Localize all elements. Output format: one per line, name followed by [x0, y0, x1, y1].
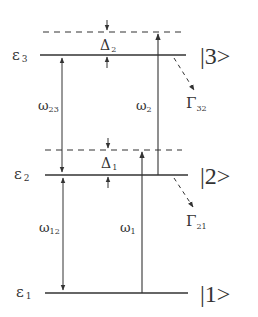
omega2-label: ω2 — [136, 98, 152, 114]
ket-label-1: |1> — [200, 281, 230, 307]
omega1-label: ω1 — [120, 220, 136, 236]
energy-level-diagram: ε3 ε2 ε1 |3> |2> |1> Δ2 Δ1 ω23 ω12 ω2 ω1… — [0, 0, 258, 317]
energy-label-e1: ε1 — [16, 283, 32, 301]
omega23-label: ω23 — [38, 98, 59, 114]
ket-label-3: |3> — [200, 43, 230, 69]
energy-label-e3: ε3 — [12, 46, 28, 64]
gamma32-label: Γ32 — [186, 94, 207, 113]
gamma21-label: Γ21 — [186, 212, 207, 231]
delta2-label: Δ2 — [100, 37, 116, 54]
omega12-label: ω12 — [39, 220, 60, 236]
gamma21-decay-arrow — [174, 178, 193, 207]
energy-label-e2: ε2 — [14, 165, 30, 183]
ket-label-2: |2> — [200, 163, 230, 189]
gamma32-decay-arrow — [174, 58, 194, 90]
delta1-label: Δ1 — [101, 155, 117, 172]
